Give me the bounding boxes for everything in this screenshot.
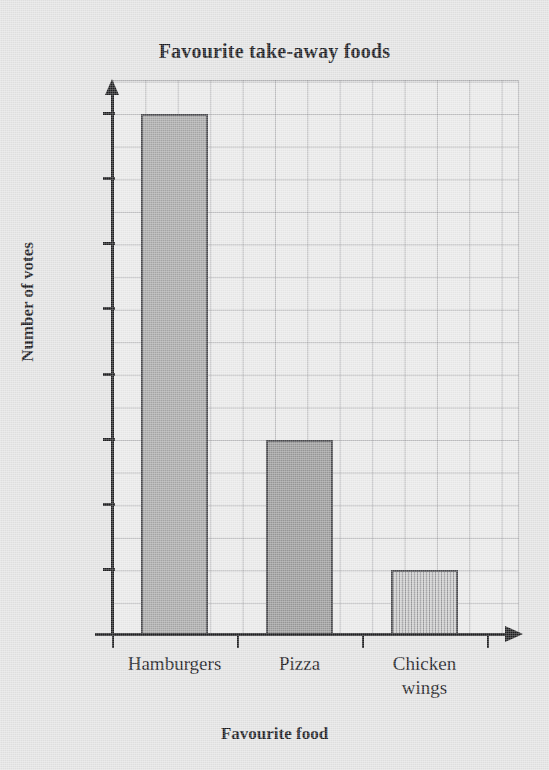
- x-axis-line: [95, 633, 510, 636]
- bar-chart: Favourite take-away foods 95095596096597…: [0, 0, 549, 770]
- y-axis-tick-mark: [103, 568, 115, 571]
- chart-title: Favourite take-away foods: [0, 40, 549, 63]
- plot-area: [113, 80, 519, 635]
- x-axis-tick-mark: [112, 633, 114, 648]
- y-axis-tick-mark: [103, 438, 115, 441]
- x-axis-tick-mark: [487, 633, 489, 648]
- y-axis-tick-mark: [103, 307, 115, 310]
- x-axis-category-label: Pizza: [237, 652, 362, 676]
- y-axis-tick-mark: [103, 112, 115, 115]
- y-axis-line: [111, 92, 114, 635]
- y-axis-tick-mark: [103, 503, 115, 506]
- x-axis-category-label: Hamburgers: [112, 652, 237, 676]
- x-axis-category-label-line: wings: [362, 676, 487, 700]
- x-axis-tick-mark: [362, 633, 364, 648]
- bar-hamburgers: [141, 114, 208, 635]
- y-axis-tick-mark: [103, 177, 115, 180]
- y-axis-tick-mark: [103, 373, 115, 376]
- x-axis-arrow-icon: [505, 626, 523, 642]
- x-axis-category-label: Chickenwings: [362, 652, 487, 700]
- x-axis-category-label-line: Hamburgers: [112, 652, 237, 676]
- bar-pizza: [266, 440, 333, 635]
- bar-chicken-wings: [391, 570, 458, 635]
- y-axis-tick-mark: [103, 242, 115, 245]
- y-axis-arrow-icon: [105, 79, 119, 95]
- x-axis-category-label-line: Pizza: [237, 652, 362, 676]
- x-axis-category-label-line: Chicken: [362, 652, 487, 676]
- x-axis-tick-mark: [237, 633, 239, 648]
- x-axis-title: Favourite food: [0, 724, 549, 744]
- y-axis-title: Number of votes: [18, 212, 38, 392]
